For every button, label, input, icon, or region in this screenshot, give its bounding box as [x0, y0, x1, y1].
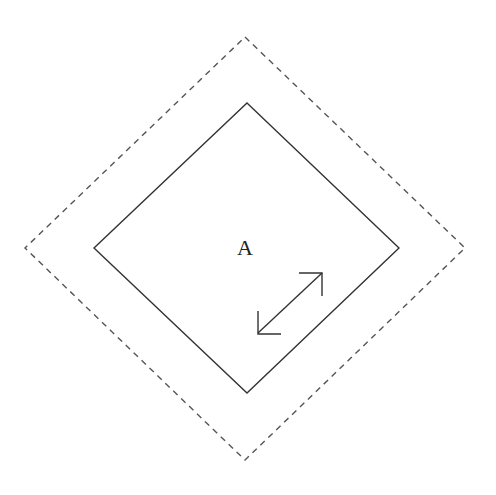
diagram-canvas: A: [0, 0, 496, 495]
double-arrow-icon: [258, 273, 322, 334]
region-label: A: [237, 235, 253, 260]
